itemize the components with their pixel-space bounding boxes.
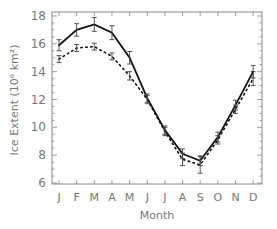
y-axis-ticks: 681012141618 [31, 9, 262, 190]
solid-series-line [59, 24, 253, 160]
dotted-series-line [59, 47, 253, 165]
y-tick-label: 10 [31, 120, 46, 134]
x-axis-ticks: JFMAMJJASOND [56, 12, 257, 204]
error-bar [57, 56, 62, 63]
error-bar [74, 45, 79, 52]
y-tick-label: 18 [31, 9, 46, 23]
x-axis-label: Month [140, 209, 175, 222]
x-tick-label: A [108, 191, 116, 204]
y-tick-label: 12 [31, 93, 46, 107]
x-tick-label: J [145, 191, 149, 204]
data-series [57, 17, 256, 173]
x-tick-label: J [56, 191, 60, 204]
x-tick-label: M [90, 191, 100, 204]
x-tick-label: M [125, 191, 135, 204]
plot-frame [52, 12, 262, 184]
x-tick-label: N [231, 191, 239, 204]
y-tick-label: 14 [31, 65, 46, 79]
ice-extent-chart: 681012141618 JFMAMJJASOND Month Ice Exte… [0, 0, 277, 229]
y-tick-label: 16 [31, 37, 46, 51]
error-bar [57, 40, 62, 51]
y-tick-label: 6 [38, 176, 46, 190]
y-tick-label: 8 [38, 148, 46, 162]
x-tick-label: O [214, 191, 223, 204]
y-axis-label: Ice Extent (10⁶ km²) [8, 45, 21, 156]
x-tick-label: S [197, 191, 204, 204]
x-tick-label: A [179, 191, 187, 204]
x-tick-label: J [162, 191, 166, 204]
x-tick-label: D [249, 191, 257, 204]
x-tick-label: F [73, 191, 79, 204]
